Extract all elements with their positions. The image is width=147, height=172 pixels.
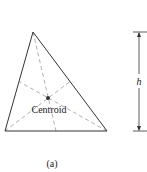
arrow-up-icon <box>137 32 141 37</box>
centroid-dot <box>46 96 50 100</box>
arrow-down-icon <box>137 126 141 131</box>
figure-caption: (a) <box>46 158 57 170</box>
centroid-label: Centroid <box>32 104 67 115</box>
medians <box>5 32 107 131</box>
height-label: h <box>137 76 142 87</box>
triangle-outline <box>5 32 107 131</box>
triangle-centroid-diagram: Centroid h (a) <box>0 0 147 172</box>
